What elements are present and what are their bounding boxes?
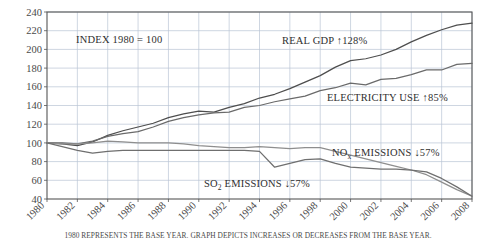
x-axis-tick-label: 1980 <box>24 200 47 223</box>
x-axis-tick-label: 2000 <box>327 200 350 223</box>
x-axis-tick-label: 1984 <box>85 199 108 222</box>
chart-annotations: INDEX 1980 = 100 REAL GDP ↑128% ELECTRIC… <box>76 34 448 192</box>
line-chart-svg: 406080100120140160180200220240 198019821… <box>0 0 496 249</box>
y-axis-tick-label: 120 <box>26 119 42 130</box>
y-axis-tick-label: 200 <box>26 44 42 55</box>
x-axis-tick-label: 2002 <box>358 200 381 223</box>
y-axis-tick-label: 140 <box>26 100 42 111</box>
footnote-text: 1980 REPRESENTS THE BASE YEAR. GRAPH DEP… <box>0 231 496 240</box>
x-axis-ticks: 1980198219841986198819901992199419961998… <box>24 199 472 222</box>
y-axis-tick-label: 80 <box>32 156 43 167</box>
chart-figure: 406080100120140160180200220240 198019821… <box>0 0 496 249</box>
x-axis-tick-label: 2004 <box>388 199 411 222</box>
x-axis-tick-label: 2006 <box>418 200 441 223</box>
x-axis-tick-label: 1988 <box>145 200 168 223</box>
x-axis-tick-label: 1982 <box>54 200 77 223</box>
x-axis-tick-label: 1996 <box>267 200 290 223</box>
y-axis-tick-label: 220 <box>26 25 42 36</box>
y-axis-tick-label: 60 <box>32 175 43 186</box>
x-axis-tick-label: 1994 <box>236 199 259 222</box>
y-axis-tick-label: 100 <box>26 138 42 149</box>
index-note-label: INDEX 1980 = 100 <box>76 34 162 45</box>
x-axis-tick-label: 1992 <box>206 200 229 223</box>
y-axis-tick-label: 240 <box>26 7 42 18</box>
x-axis-tick-label: 2008 <box>449 200 472 223</box>
y-axis-tick-label: 180 <box>26 63 42 74</box>
y-axis-tick-label: 160 <box>26 81 42 92</box>
x-axis-tick-label: 1998 <box>297 200 320 223</box>
y-axis-ticks: 406080100120140160180200220240 <box>26 7 47 205</box>
series-label-electricity-use: ELECTRICITY USE ↑85% <box>327 92 448 103</box>
series-label-nox-emissions: NOx EMISSIONS ↓57% <box>332 147 440 161</box>
x-axis-tick-label: 1990 <box>176 200 199 223</box>
x-axis-tick-label: 1986 <box>115 200 138 223</box>
series-label-real-gdp: REAL GDP ↑128% <box>282 35 367 46</box>
